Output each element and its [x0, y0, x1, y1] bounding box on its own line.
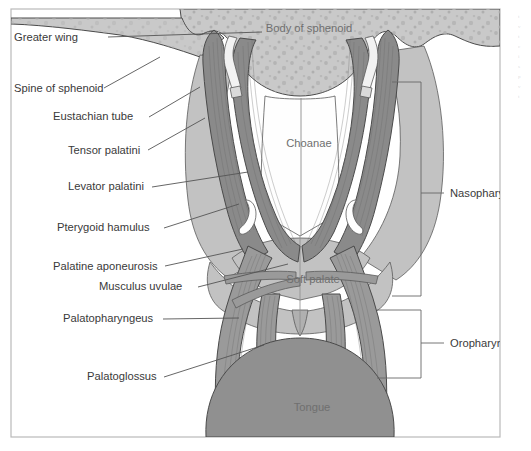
label-palatine-aponeurosis: Palatine aponeurosis — [53, 260, 158, 272]
label-choanae: Choanae — [286, 137, 331, 149]
anatomy-diagram-svg: Greater wing Spine of sphenoid Eustachia… — [0, 0, 531, 451]
eustachian-tube-right-cartilage — [360, 86, 372, 98]
label-palatoglossus: Palatoglossus — [87, 370, 157, 382]
edge-line-5: s — [518, 64, 520, 69]
label-palatopharyngeus: Palatopharyngeus — [63, 312, 154, 324]
label-pterygoid-hamulus: Pterygoid hamulus — [57, 221, 150, 233]
label-spine-of-sphenoid: Spine of sphenoid — [14, 82, 104, 94]
anatomy-figure-root: Greater wing Spine of sphenoid Eustachia… — [0, 0, 531, 451]
label-levator-palatini: Levator palatini — [68, 180, 144, 192]
label-body-of-sphenoid: Body of sphenoid — [266, 22, 352, 34]
label-tensor-palatini: Tensor palatini — [68, 144, 140, 156]
eustachian-tube-left-cartilage — [230, 86, 242, 98]
label-musculus-uvulae: Musculus uvulae — [99, 280, 182, 292]
label-eustachian-tube: Eustachian tube — [53, 110, 133, 122]
label-greater-wing: Greater wing — [14, 31, 78, 43]
label-soft-palate: Soft palate — [286, 273, 340, 285]
label-tongue: Tongue — [294, 401, 331, 413]
